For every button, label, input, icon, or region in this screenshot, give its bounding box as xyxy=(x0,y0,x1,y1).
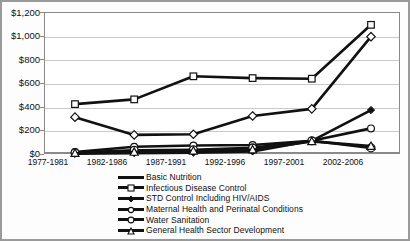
y-tick-label-400: $400 xyxy=(0,102,40,112)
legend-item-basic-nutrition: Basic Nutrition xyxy=(118,172,303,183)
legend-label-2: STD Control Including HIV/AIDS xyxy=(146,193,269,203)
legend-item-water-sanitation: Water Sanitation xyxy=(118,214,303,225)
legend-swatch-diamond-icon xyxy=(118,173,144,182)
chart-legend: Basic Nutrition Infectious Disease Contr… xyxy=(118,172,303,236)
data-point xyxy=(248,112,256,120)
legend-label-3: Maternal Health and Perinatal Conditions xyxy=(146,204,303,214)
data-point xyxy=(368,125,375,132)
legend-item-infectious-disease-control: Infectious Disease Control xyxy=(118,183,303,194)
data-point xyxy=(309,75,316,82)
legend-item-maternal-health: Maternal Health and Perinatal Conditions xyxy=(118,204,303,215)
legend-label-4: Water Sanitation xyxy=(146,215,209,225)
data-point xyxy=(130,131,138,139)
series-layer xyxy=(45,13,401,155)
data-point xyxy=(131,96,138,103)
legend-label-5: General Health Sector Development xyxy=(146,225,284,235)
legend-swatch-circle-open-icon xyxy=(118,215,144,224)
y-tick-label-1000: $1,000 xyxy=(0,31,40,41)
series-basic-nutrition xyxy=(71,32,375,139)
legend-swatch-square-icon xyxy=(118,183,144,192)
figure-border-top xyxy=(0,0,410,2)
data-point xyxy=(249,75,256,82)
y-tick-label-1200: $1,200 xyxy=(0,8,40,18)
legend-label-0: Basic Nutrition xyxy=(146,172,202,182)
chart-figure: $1,200 $1,000 $800 $600 $400 $200 $0 197… xyxy=(0,0,410,241)
y-tick-label-800: $800 xyxy=(0,55,40,65)
y-tick-label-600: $600 xyxy=(0,78,40,88)
figure-border-left xyxy=(0,0,2,241)
y-tick-label-200: $200 xyxy=(0,125,40,135)
legend-label-1: Infectious Disease Control xyxy=(146,183,247,193)
data-point xyxy=(189,130,197,138)
series-infectious-disease-control xyxy=(72,22,375,108)
series-general-health-sector-development xyxy=(71,137,375,156)
data-point xyxy=(71,113,79,121)
data-point xyxy=(190,73,197,80)
data-point xyxy=(72,101,79,108)
plot-area xyxy=(44,12,400,154)
y-tick-mark-0 xyxy=(40,154,44,155)
legend-swatch-diamond-filled-icon xyxy=(118,194,144,203)
legend-swatch-circle-icon xyxy=(118,205,144,214)
legend-item-std-control: STD Control Including HIV/AIDS xyxy=(118,193,303,204)
x-tick-label-5: 2002-2006 xyxy=(308,157,378,167)
legend-item-general-health-sector-development: General Health Sector Development xyxy=(118,225,303,236)
data-point xyxy=(368,22,375,29)
legend-swatch-triangle-icon xyxy=(118,226,144,235)
